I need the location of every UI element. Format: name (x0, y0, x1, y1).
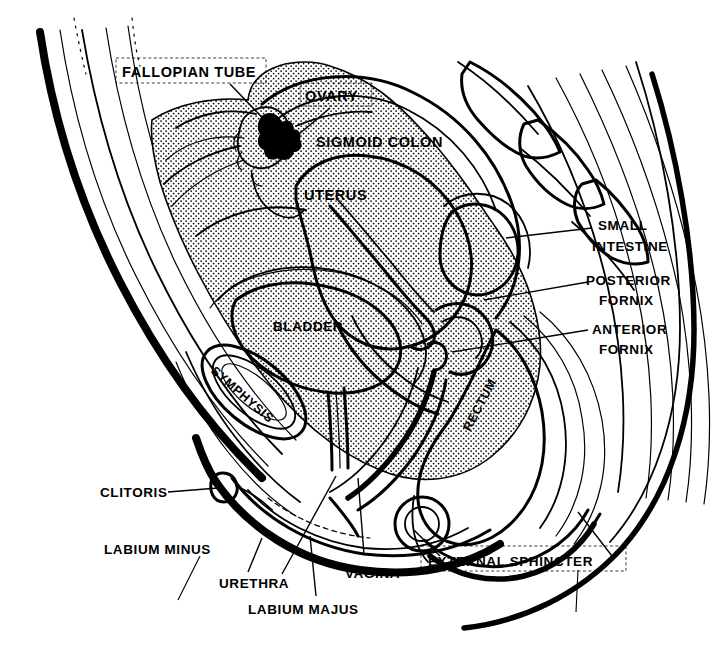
label-small-intestine-line1: SMALL (598, 218, 648, 233)
label-bladder: BLADDER (273, 319, 343, 334)
label-sigmoid-colon: SIGMOID COLON (316, 134, 443, 150)
label-uterus: UTERUS (304, 187, 367, 203)
label-labium-majus: LABIUM MAJUS (248, 602, 359, 617)
label-labium-minus: LABIUM MINUS (104, 542, 211, 557)
label-posterior-fornix-line1: POSTERIOR (586, 273, 671, 288)
label-posterior-fornix-line2: FORNIX (599, 293, 654, 308)
pelvis-sagittal-svg: FALLOPIAN TUBE OVARY SIGMOID COLON UTERU… (0, 0, 718, 652)
label-small-intestine-line2: INTESTINE (592, 239, 668, 254)
label-anterior-fornix-line1: ANTERIOR (592, 322, 667, 337)
label-clitoris: CLITORIS (100, 485, 168, 500)
label-vagina: VAGINA (345, 566, 400, 581)
label-ovary: OVARY (305, 88, 358, 104)
label-urethra: URETHRA (219, 576, 289, 591)
label-fallopian-tube: FALLOPIAN TUBE (122, 64, 256, 80)
label-external-sphincter: EXTERNAL SPHINCTER (428, 554, 593, 569)
label-anterior-fornix-line2: FORNIX (599, 342, 654, 357)
anatomical-diagram-canvas: FALLOPIAN TUBE OVARY SIGMOID COLON UTERU… (0, 0, 718, 652)
